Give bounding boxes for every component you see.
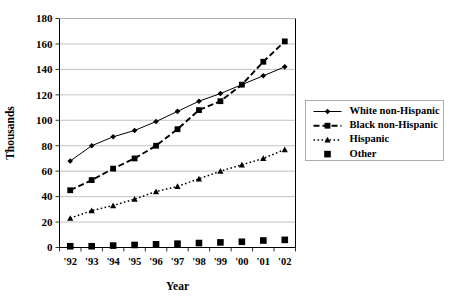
data-point [196, 107, 202, 113]
data-point [175, 109, 181, 115]
data-point [282, 39, 288, 45]
data-point [174, 183, 180, 189]
x-tick-label: '97 [171, 256, 184, 267]
legend-label: Other [350, 148, 377, 159]
data-point [218, 98, 224, 104]
y-tick-label: 140 [36, 63, 53, 75]
y-tick-label: 40 [42, 190, 54, 202]
series-black-non-hispanic [67, 39, 287, 194]
data-point [153, 241, 160, 248]
data-point [217, 239, 224, 246]
x-tick-label: '94 [106, 256, 120, 267]
x-tick-label: '01 [257, 256, 270, 267]
legend-label: Black non-Hispanic [350, 119, 439, 130]
data-point [260, 237, 267, 244]
series-hispanic [67, 146, 288, 220]
y-axis-title: Thousands [4, 106, 16, 160]
y-tick-label: 100 [36, 114, 53, 126]
data-point [239, 162, 245, 168]
data-point [260, 59, 266, 65]
legend-label: White non-Hispanic [350, 105, 440, 116]
data-point [67, 243, 74, 250]
data-point [196, 240, 203, 247]
data-point [218, 91, 224, 97]
y-tick-label: 20 [42, 216, 54, 228]
legend-marker [324, 151, 331, 158]
data-point [89, 177, 95, 183]
y-tick-label: 60 [42, 165, 54, 177]
data-point [239, 82, 245, 88]
series-line [70, 41, 285, 190]
data-point [281, 237, 288, 244]
data-point [132, 128, 138, 134]
data-point [67, 215, 73, 221]
data-point [132, 156, 138, 162]
x-tick-label: '93 [85, 256, 98, 267]
y-tick-label: 0 [47, 241, 53, 253]
x-tick-label: '98 [192, 256, 205, 267]
x-tick-label: '95 [128, 256, 141, 267]
data-point [110, 134, 116, 140]
data-point [282, 146, 288, 152]
data-point [110, 202, 116, 208]
x-tick-label: '96 [149, 256, 162, 267]
chart-figure: 020406080100120140160180'92'93'94'95'96'… [0, 0, 454, 300]
data-point [175, 126, 181, 132]
y-tick-label: 180 [36, 12, 53, 24]
data-point [196, 98, 202, 104]
data-point [239, 238, 246, 245]
series-white-non-hispanic [67, 64, 287, 164]
x-tick-label: '99 [214, 256, 227, 267]
y-tick-label: 160 [36, 38, 53, 50]
data-point [153, 143, 159, 149]
x-tick-label: '00 [235, 256, 248, 267]
x-axis-title: Year [166, 280, 189, 292]
data-point [153, 119, 159, 125]
legend: White non-HispanicBlack non-HispanicHisp… [306, 101, 444, 161]
data-point [131, 242, 138, 249]
y-tick-label: 80 [42, 140, 54, 152]
data-point [261, 73, 267, 79]
data-point [282, 64, 288, 70]
y-tick-label: 120 [36, 89, 53, 101]
chart-canvas: 020406080100120140160180'92'93'94'95'96'… [0, 0, 454, 300]
x-tick-label: '02 [278, 256, 291, 267]
data-point [88, 243, 95, 250]
data-point [110, 166, 116, 172]
data-point [110, 242, 117, 249]
legend-marker [325, 123, 331, 129]
x-tick-label: '92 [64, 256, 77, 267]
legend-label: Hispanic [350, 133, 390, 144]
data-point [67, 187, 73, 193]
data-point [174, 240, 181, 247]
